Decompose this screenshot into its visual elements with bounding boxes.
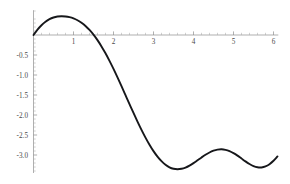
x-tick-label: 2	[112, 38, 116, 46]
y-tick-label: -3.0	[17, 152, 29, 160]
x-tick-label: 6	[272, 38, 276, 46]
y-axis-tick-labels: -0.5-1.0-1.5-2.0-2.5-3.0	[17, 52, 29, 160]
x-tick-label: 5	[232, 38, 236, 46]
y-tick-label: -1.5	[17, 92, 29, 100]
y-axis-major-ticks	[34, 55, 38, 155]
plot-canvas: 123456 -0.5-1.0-1.5-2.0-2.5-3.0	[0, 0, 290, 184]
data-curve	[34, 16, 278, 169]
x-axis-tick-labels: 123456	[72, 38, 276, 46]
y-tick-label: -0.5	[17, 52, 29, 60]
y-tick-label: -2.0	[17, 112, 29, 120]
x-tick-label: 1	[72, 38, 76, 46]
series-group	[34, 16, 278, 169]
x-axis-major-ticks	[74, 31, 274, 35]
plot-figure: 123456 -0.5-1.0-1.5-2.0-2.5-3.0	[0, 0, 290, 184]
x-tick-label: 4	[192, 38, 196, 46]
y-tick-label: -1.0	[17, 72, 29, 80]
x-tick-label: 3	[152, 38, 156, 46]
y-tick-label: -2.5	[17, 132, 29, 140]
